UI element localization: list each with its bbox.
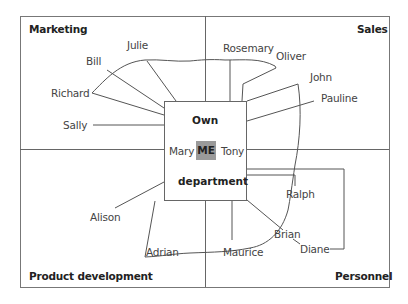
person-rosemary: Rosemary: [223, 42, 274, 54]
pauline-line: [247, 101, 314, 121]
brian-line: [247, 200, 283, 230]
richard-line: [92, 93, 164, 115]
person-alison: Alison: [90, 211, 120, 223]
quadrant-product-development: Product development: [29, 270, 153, 282]
bill-line: [107, 70, 164, 108]
quadrant-marketing: Marketing: [29, 23, 87, 35]
person-maurice: Maurice: [223, 246, 263, 258]
person-adrian: Adrian: [146, 246, 179, 258]
julie-line: [147, 61, 176, 101]
me-badge: ME: [196, 141, 216, 160]
person-oliver: Oliver: [276, 50, 306, 62]
own-label: Own: [192, 114, 218, 126]
person-julie: Julie: [127, 39, 148, 51]
person-sally: Sally: [63, 119, 87, 131]
person-pauline: Pauline: [321, 92, 358, 104]
person-brian: Brian: [274, 228, 301, 240]
person-john: John: [310, 71, 332, 83]
tony-label: Tony: [221, 145, 244, 157]
person-ralph: Ralph: [286, 188, 315, 200]
department-label: department: [178, 175, 248, 187]
person-bill: Bill: [86, 55, 101, 67]
network-diagram: Marketing Sales Product development Pers…: [0, 0, 408, 304]
person-richard: Richard: [51, 87, 89, 99]
mary-label: Mary: [169, 145, 194, 157]
ralph-bracket: [247, 175, 295, 186]
alison-line: [115, 182, 164, 208]
person-diane: Diane: [300, 243, 330, 255]
quadrant-sales: Sales: [357, 23, 388, 35]
quadrant-personnel: Personnel: [335, 270, 392, 282]
